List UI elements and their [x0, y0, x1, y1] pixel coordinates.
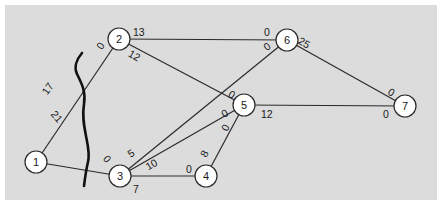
node-1-label: 1 — [33, 156, 39, 168]
edge-label-3-4-to: 0 — [186, 163, 192, 175]
node-6: 6 — [276, 29, 298, 51]
node-6-label: 6 — [284, 34, 290, 46]
cut-line — [76, 53, 89, 186]
edge-1-3 — [36, 162, 120, 176]
network-diagram: 17 0 21 0 13 0 12 0 5 0 10 0 7 0 8 0 12 … — [0, 0, 443, 206]
edge-label-4-5-to: 0 — [218, 122, 231, 133]
edge-label-2-5-from: 12 — [127, 47, 143, 63]
edge-2-6 — [119, 39, 287, 40]
edge-5-7 — [244, 105, 405, 106]
edge-label-6-7-from: 25 — [296, 34, 312, 50]
node-5: 5 — [233, 94, 255, 116]
edge-label-4-5-from: 8 — [197, 148, 210, 159]
node-3-label: 3 — [117, 170, 123, 182]
edge-label-1-3-to: 0 — [101, 153, 114, 165]
edge-label-3-6-from: 5 — [125, 146, 137, 159]
edge-label-3-4-from: 7 — [133, 183, 139, 195]
edge-2-5 — [119, 39, 244, 105]
node-7: 7 — [394, 95, 416, 117]
node-4-label: 4 — [203, 170, 209, 182]
edge-label-2-6-from: 13 — [133, 26, 145, 38]
edge-label-3-5-from: 10 — [143, 156, 159, 172]
node-2: 2 — [108, 28, 130, 50]
node-7-label: 7 — [402, 100, 408, 112]
edge-label-1-2-from: 17 — [39, 80, 56, 97]
edge-label-1-2-to: 0 — [94, 40, 107, 52]
node-1: 1 — [25, 151, 47, 173]
node-3: 3 — [109, 165, 131, 187]
edge-label-3-6-to: 0 — [261, 40, 273, 53]
node-5-label: 5 — [241, 99, 247, 111]
edge-label-2-6-to: 0 — [264, 26, 270, 38]
edge-label-5-7-to: 0 — [383, 108, 389, 120]
node-2-label: 2 — [116, 33, 122, 45]
node-4: 4 — [195, 165, 217, 187]
edge-label-5-7-from: 12 — [261, 108, 273, 120]
